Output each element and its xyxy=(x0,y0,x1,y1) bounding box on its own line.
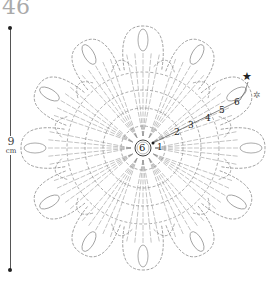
round-number-3: 3 xyxy=(188,120,194,130)
round-number-1: 1 xyxy=(157,142,163,152)
round-number-6: 6 xyxy=(234,97,240,107)
center-ring-label: 6 xyxy=(139,142,145,153)
end-asterisk-icon: ✲ xyxy=(253,90,261,100)
round-number-5: 5 xyxy=(219,105,225,115)
crochet-chart xyxy=(0,0,267,295)
round-number-2: 2 xyxy=(174,127,180,137)
round-number-4: 4 xyxy=(205,113,211,123)
start-star-icon: ★ xyxy=(242,70,252,83)
